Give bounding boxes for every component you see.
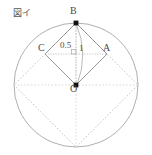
geometry-figure: 図イ B A C O 0.5 1 [0, 0, 152, 155]
measure-label-radius: 1 [79, 44, 84, 53]
point-label-b: B [70, 6, 77, 16]
point-marker-B [74, 21, 79, 26]
right-angle-marker [72, 50, 77, 55]
point-label-o: O [70, 84, 77, 94]
point-label-a: A [103, 43, 110, 53]
figure-caption: 図イ [13, 9, 31, 18]
diagram-canvas [0, 0, 152, 155]
measure-label-half-diagonal: 0.5 [60, 41, 71, 50]
point-label-c: C [38, 43, 45, 53]
